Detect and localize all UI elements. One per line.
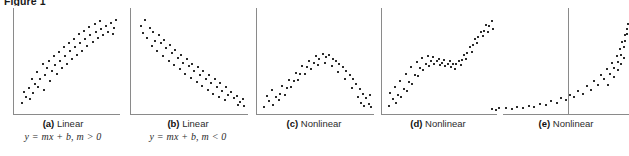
- scatter-point: [214, 78, 216, 80]
- scatter-point: [491, 20, 493, 22]
- scatter-point: [332, 58, 334, 60]
- scatter-point: [140, 25, 142, 27]
- scatter-point: [491, 108, 493, 110]
- panel-e-x-axis: [503, 114, 629, 115]
- scatter-point: [32, 92, 34, 94]
- scatter-point: [272, 104, 274, 106]
- scatter-point: [43, 89, 45, 91]
- scatter-point: [315, 55, 317, 57]
- scatter-point: [403, 88, 405, 90]
- panel-e-plot: [503, 8, 629, 115]
- panel-row: (a) Linear y = mx + b, m > 0 (b) Linear …: [0, 8, 629, 156]
- scatter-point: [465, 58, 467, 60]
- scatter-point: [105, 25, 107, 27]
- scatter-point: [485, 24, 487, 26]
- scatter-point: [360, 102, 362, 104]
- scatter-point: [441, 62, 443, 64]
- scatter-point: [281, 85, 283, 87]
- panel-c-y-axis: [256, 8, 257, 115]
- scatter-point: [474, 38, 476, 40]
- scatter-point: [461, 59, 463, 61]
- scatter-point: [471, 51, 473, 53]
- scatter-point: [620, 63, 622, 65]
- scatter-point: [210, 82, 212, 84]
- panel-b-y-axis: [130, 8, 131, 115]
- scatter-point: [600, 74, 602, 76]
- scatter-point: [107, 31, 109, 33]
- scatter-point: [472, 44, 474, 46]
- scatter-point: [365, 97, 367, 99]
- scatter-point: [94, 23, 96, 25]
- scatter-point: [617, 61, 619, 63]
- scatter-point: [458, 60, 460, 62]
- scatter-point: [242, 98, 244, 100]
- panel-c-x-axis: [256, 114, 374, 115]
- scatter-point: [99, 20, 101, 22]
- scatter-point: [422, 69, 424, 71]
- scatter-point: [405, 73, 407, 75]
- scatter-point: [48, 60, 50, 62]
- scatter-point: [419, 67, 421, 69]
- scatter-point: [613, 76, 615, 78]
- scatter-point: [207, 89, 209, 91]
- scatter-point: [342, 66, 344, 68]
- scatter-point: [56, 73, 58, 75]
- scatter-point: [295, 72, 297, 74]
- panel-d-name: Nonlinear: [425, 118, 466, 129]
- scatter-point: [66, 63, 68, 65]
- scatter-point: [616, 55, 618, 57]
- scatter-point: [301, 65, 303, 67]
- panel-e-y-axis: [568, 8, 569, 115]
- scatter-point: [100, 28, 102, 30]
- scatter-point: [569, 94, 571, 96]
- scatter-point: [233, 97, 235, 99]
- scatter-point: [306, 66, 308, 68]
- scatter-point: [607, 84, 609, 86]
- scatter-point: [455, 63, 457, 65]
- panel-a-y-axis: [13, 8, 14, 115]
- scatter-point: [621, 41, 623, 43]
- scatter-point: [466, 52, 468, 54]
- scatter-point: [550, 100, 552, 102]
- scatter-point: [560, 97, 562, 99]
- scatter-point: [44, 74, 46, 76]
- scatter-point: [279, 93, 281, 95]
- scatter-point: [299, 73, 301, 75]
- scatter-point: [488, 25, 490, 27]
- panel-b-caption: (b) Linear y = mx + b, m < 0: [128, 118, 248, 143]
- scatter-point: [447, 63, 449, 65]
- scatter-point: [83, 30, 85, 32]
- scatter-point: [71, 58, 73, 60]
- scatter-point: [400, 96, 402, 98]
- scatter-point: [196, 81, 198, 83]
- scatter-point: [236, 95, 238, 97]
- scatter-point: [613, 67, 615, 69]
- scatter-point: [313, 62, 315, 64]
- scatter-point: [179, 68, 181, 70]
- scatter-point: [63, 46, 65, 48]
- scatter-point: [617, 69, 619, 71]
- scatter-point: [278, 99, 280, 101]
- scatter-point: [92, 41, 94, 43]
- scatter-point: [480, 31, 482, 33]
- scatter-point: [394, 86, 396, 88]
- scatter-point: [388, 105, 390, 107]
- scatter-point: [337, 71, 339, 73]
- scatter-point: [173, 64, 175, 66]
- scatter-point: [42, 63, 44, 65]
- scatter-point: [351, 87, 353, 89]
- scatter-point: [416, 61, 418, 63]
- panel-d-plot: [379, 8, 497, 115]
- scatter-point: [37, 86, 39, 88]
- panel-c-caption: (c) Nonlinear: [254, 118, 374, 131]
- scatter-point: [345, 70, 347, 72]
- scatter-point: [84, 38, 86, 40]
- scatter-point: [344, 78, 346, 80]
- scatter-point: [450, 66, 452, 68]
- scatter-point: [76, 54, 78, 56]
- scatter-point: [271, 89, 273, 91]
- scatter-point: [427, 55, 429, 57]
- scatter-point: [288, 79, 290, 81]
- panel-e-label: (e): [539, 118, 551, 129]
- scatter-point: [112, 33, 114, 35]
